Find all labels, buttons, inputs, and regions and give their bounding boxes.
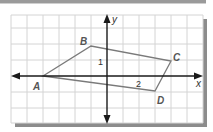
vertex-label-c: C xyxy=(173,52,181,63)
y-axis-label: y xyxy=(111,14,118,25)
x-axis-label: x xyxy=(195,78,202,89)
x-tick-label-2: 2 xyxy=(136,79,141,89)
vertex-label-d: D xyxy=(157,95,164,106)
vertex-label-a: A xyxy=(32,81,40,92)
vertex-label-b: B xyxy=(80,36,87,47)
y-tick-label-1: 1 xyxy=(98,57,103,67)
coordinate-plane-figure: y x 1 2 A B C D xyxy=(0,0,213,132)
